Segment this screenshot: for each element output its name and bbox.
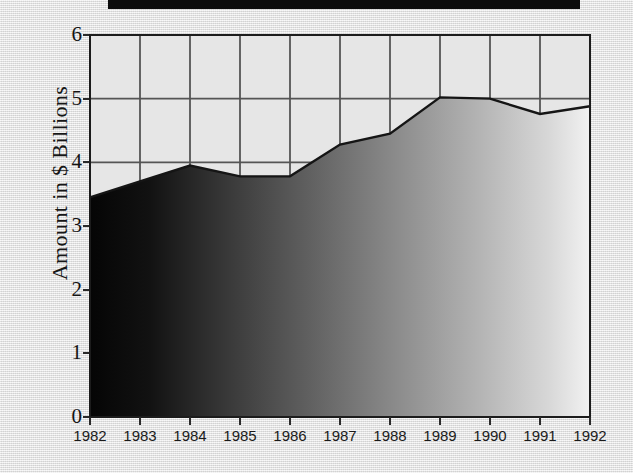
x-tick-mark	[289, 417, 291, 425]
y-tick-label: 2	[56, 279, 82, 300]
x-tick-mark	[339, 417, 341, 425]
x-tick-label: 1990	[463, 428, 517, 443]
y-axis-tick-labels: 0123456	[52, 0, 82, 473]
x-tick-label: 1987	[313, 428, 367, 443]
x-tick-label: 1984	[163, 428, 217, 443]
x-tick-mark	[189, 417, 191, 425]
x-axis-tick-labels: 1982198319841985198619871988198919901991…	[0, 428, 633, 454]
window-title-bar	[108, 0, 580, 9]
x-tick-label: 1988	[363, 428, 417, 443]
x-tick-mark	[239, 417, 241, 425]
y-tick-label: 1	[56, 342, 82, 363]
x-tick-label: 1991	[513, 428, 567, 443]
x-tick-mark	[89, 417, 91, 425]
area-chart-svg	[90, 35, 590, 417]
x-tick-label: 1982	[63, 428, 117, 443]
y-tick-label: 3	[56, 215, 82, 236]
y-tick-label: 5	[56, 88, 82, 109]
chart-screenshot: Amount in $ Billions 0123456	[0, 0, 633, 473]
y-tick-label: 6	[56, 24, 82, 45]
x-tick-mark	[139, 417, 141, 425]
x-axis-tick-marks	[0, 417, 633, 426]
x-tick-label: 1985	[213, 428, 267, 443]
x-tick-label: 1986	[263, 428, 317, 443]
x-tick-label: 1992	[563, 428, 617, 443]
x-tick-mark	[539, 417, 541, 425]
y-tick-label: 4	[56, 151, 82, 172]
x-tick-label: 1989	[413, 428, 467, 443]
x-tick-mark	[439, 417, 441, 425]
x-tick-mark	[589, 417, 591, 425]
x-tick-mark	[389, 417, 391, 425]
x-tick-label: 1983	[113, 428, 167, 443]
plot-area	[90, 35, 590, 417]
x-tick-mark	[489, 417, 491, 425]
